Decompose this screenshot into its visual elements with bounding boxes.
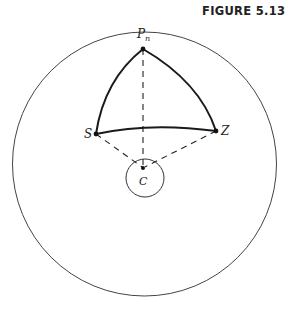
- spherical-triangle: [96, 49, 216, 134]
- s-label: S: [84, 127, 92, 141]
- arc-pole-to-z: [143, 49, 216, 131]
- z-to-center-line: [145, 131, 216, 167]
- center-point: [141, 166, 145, 170]
- outer-sphere-circle: [13, 32, 277, 296]
- c-label: C: [139, 175, 148, 188]
- dashed-radii: [96, 49, 216, 168]
- celestial-sphere-diagram: Pn S Z C: [0, 0, 291, 310]
- s-to-center-line: [96, 134, 142, 167]
- z-point: [214, 129, 219, 134]
- pole-label: Pn: [136, 27, 150, 43]
- arc-pole-to-s: [96, 49, 143, 134]
- arc-s-to-z: [96, 127, 216, 134]
- z-label: Z: [220, 124, 230, 138]
- s-point: [94, 132, 99, 137]
- pole-point: [141, 47, 146, 52]
